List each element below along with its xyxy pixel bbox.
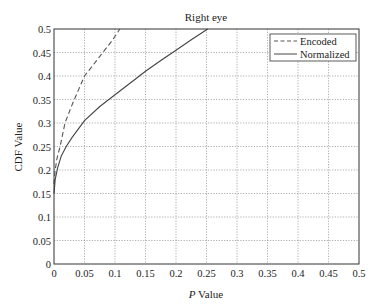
- x-tick-label: 0.2: [169, 268, 182, 279]
- x-axis-label: P Value: [188, 288, 223, 300]
- x-tick-label: 0: [51, 268, 56, 279]
- x-tick-label: 0.25: [197, 268, 215, 279]
- legend-label-normalized: Normalized: [300, 49, 350, 60]
- legend: Encoded Normalized: [270, 34, 356, 61]
- x-tick-label: 0.45: [319, 268, 337, 279]
- cdf-chart: Right eye 00.050.10.150.20.250.30.350.40…: [0, 0, 381, 304]
- y-tick-label: 0.5: [38, 24, 51, 35]
- y-axis-label: CDF Value: [12, 122, 24, 171]
- y-tick-label: 0.4: [38, 71, 52, 82]
- y-tick-label: 0.25: [33, 142, 51, 153]
- y-tick-label: 0.2: [38, 165, 51, 176]
- x-axis-ticks: 00.050.10.150.20.250.30.350.40.450.5: [51, 268, 365, 279]
- y-tick-label: 0.3: [38, 118, 51, 129]
- series-line-normalized: [54, 29, 208, 194]
- legend-label-encoded: Encoded: [300, 36, 337, 47]
- chart-title: Right eye: [185, 11, 228, 23]
- y-tick-label: 0.1: [38, 212, 51, 223]
- y-tick-label: 0.45: [33, 48, 51, 59]
- x-tick-label: 0.5: [352, 268, 365, 279]
- y-tick-label: 0.05: [33, 236, 51, 247]
- x-tick-label: 0.05: [75, 268, 93, 279]
- x-tick-label: 0.4: [291, 268, 305, 279]
- data-series: [54, 29, 208, 194]
- y-tick-label: 0.35: [33, 95, 51, 106]
- y-tick-label: 0.15: [33, 189, 51, 200]
- x-tick-label: 0.15: [136, 268, 154, 279]
- x-tick-label: 0.3: [230, 268, 243, 279]
- y-tick-label: 0: [46, 259, 51, 270]
- x-tick-label: 0.1: [108, 268, 121, 279]
- grid-lines: [54, 29, 359, 264]
- x-tick-label: 0.35: [258, 268, 276, 279]
- y-axis-ticks: 00.050.10.150.20.250.30.350.40.450.5: [33, 24, 52, 270]
- chart-canvas: Right eye 00.050.10.150.20.250.30.350.40…: [0, 0, 381, 304]
